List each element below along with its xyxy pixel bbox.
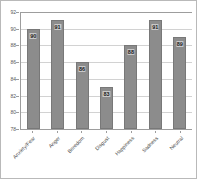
bar[interactable]: 90 — [27, 29, 40, 129]
x-slot: Neutral — [167, 131, 192, 177]
y-tick-mark — [16, 29, 19, 30]
x-tick-mark — [57, 131, 58, 133]
x-tick-label: Anger — [47, 135, 61, 149]
y-tick-mark — [16, 45, 19, 46]
bar-slot: 91 — [143, 12, 167, 129]
bar-value-label: 89 — [176, 41, 183, 47]
bar-value-label: 86 — [78, 66, 85, 72]
bar[interactable]: 86 — [76, 62, 89, 129]
bar[interactable]: 88 — [124, 45, 137, 129]
y-tick-mark — [16, 12, 19, 13]
x-axis: Anxiety/FearAngerBoredomDisgustHappiness… — [20, 131, 192, 177]
x-tick-label: Anxiety/Fear — [12, 135, 37, 160]
bar-slot: 83 — [94, 12, 118, 129]
x-slot: Anxiety/Fear — [20, 131, 45, 177]
bar-chart-figure: 7880828486889092 90918683889189 Anxiety/… — [0, 0, 197, 179]
x-tick-mark — [180, 131, 181, 133]
bar[interactable]: 91 — [149, 20, 162, 129]
bar-slot: 88 — [119, 12, 143, 129]
x-slot: Boredom — [69, 131, 94, 177]
bar-value-label: 83 — [103, 91, 110, 97]
bar[interactable]: 91 — [51, 20, 64, 129]
bar-slot: 90 — [21, 12, 45, 129]
y-axis: 7880828486889092 — [1, 12, 18, 130]
x-slot: Sadness — [143, 131, 168, 177]
bar-value-label: 91 — [152, 24, 159, 30]
plot-area: 90918683889189 — [20, 12, 192, 130]
bar-slot: 89 — [168, 12, 192, 129]
x-slot: Anger — [45, 131, 70, 177]
y-tick-mark — [16, 62, 19, 63]
x-tick-mark — [131, 131, 132, 133]
x-slot: Happiness — [118, 131, 143, 177]
bar-slot: 86 — [70, 12, 94, 129]
x-tick-mark — [155, 131, 156, 133]
x-tick-label: Neutral — [168, 135, 184, 151]
x-tick-label: Disgust — [94, 135, 110, 151]
bar-value-label: 88 — [127, 49, 134, 55]
x-tick-label: Boredom — [67, 135, 86, 154]
bar[interactable]: 83 — [100, 87, 113, 129]
x-tick-mark — [106, 131, 107, 133]
bar-slot: 91 — [45, 12, 69, 129]
x-tick-label: Sadness — [141, 135, 160, 154]
y-tick-mark — [16, 96, 19, 97]
bar-value-label: 90 — [30, 33, 37, 39]
bar-value-label: 91 — [54, 24, 61, 30]
bar[interactable]: 89 — [173, 37, 186, 129]
bars-container: 90918683889189 — [21, 12, 192, 129]
y-tick-mark — [16, 112, 19, 113]
y-tick-mark — [16, 79, 19, 80]
y-tick-mark — [16, 129, 19, 130]
x-tick-mark — [81, 131, 82, 133]
x-tick-mark — [32, 131, 33, 133]
